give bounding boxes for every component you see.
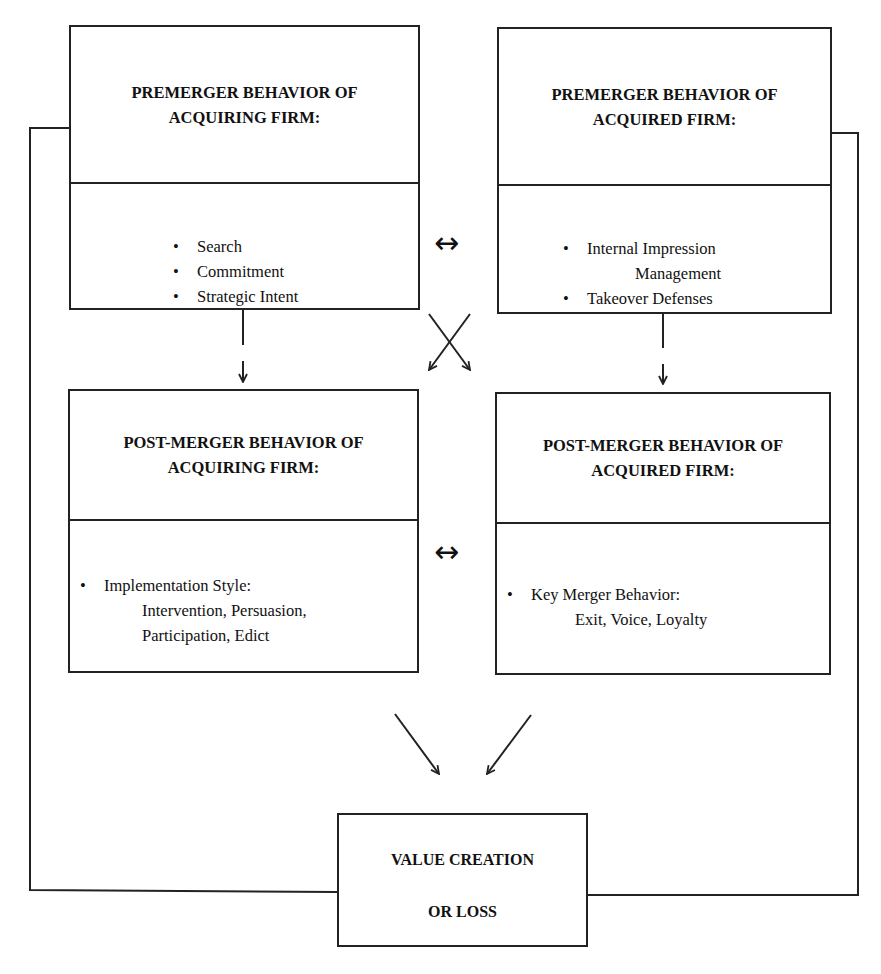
list-item-text: Internal Impression [587,239,716,258]
list-item-text: Intervention, Persuasion, [104,598,307,623]
box-premerger-acquired: PREMERGER BEHAVIOR OF ACQUIRED FIRM: Int… [497,27,832,314]
box-title: ACQUIRING FIRM: [131,105,357,130]
list-item: Key Merger Behavior: Exit, Voice, Loyalt… [507,582,707,632]
box-body: Key Merger Behavior: Exit, Voice, Loyalt… [497,524,829,673]
box-title: PREMERGER BEHAVIOR OF [131,80,357,105]
box-header: POST-MERGER BEHAVIOR OF ACQUIRING FIRM: [70,391,417,521]
box-body: Implementation Style: Intervention, Pers… [70,521,417,671]
box-title: POST-MERGER BEHAVIOR OF [543,433,783,458]
list-item-text: Participation, Edict [104,623,307,648]
box-postmerger-acquiring: POST-MERGER BEHAVIOR OF ACQUIRING FIRM: … [68,389,419,673]
box-header: PREMERGER BEHAVIOR OF ACQUIRED FIRM: [499,29,830,186]
box-title: POST-MERGER BEHAVIOR OF [123,430,363,455]
box-header: POST-MERGER BEHAVIOR OF ACQUIRED FIRM: [497,394,829,524]
outcome-label: VALUE CREATION [339,851,586,869]
box-premerger-acquiring: PREMERGER BEHAVIOR OF ACQUIRING FIRM: Se… [69,25,420,310]
arrow-to-outcome-right [487,715,531,774]
list-item-text: Implementation Style: [104,576,251,595]
list-item: Strategic Intent [173,284,298,309]
list-item: Internal Impression Management [563,236,721,286]
box-postmerger-acquired: POST-MERGER BEHAVIOR OF ACQUIRED FIRM: K… [495,392,831,675]
box-title: ACQUIRING FIRM: [123,455,363,480]
box-body: Internal Impression Management Takeover … [499,186,830,312]
box-header: PREMERGER BEHAVIOR OF ACQUIRING FIRM: [71,27,418,184]
box-title: ACQUIRED FIRM: [551,107,777,132]
list-item: Commitment [173,259,298,284]
bidirectional-arrow-icon: ↔ [434,537,459,567]
box-body: Search Commitment Strategic Intent [71,184,418,308]
list-item-text: Exit, Voice, Loyalty [531,607,707,632]
box-title: PREMERGER BEHAVIOR OF [551,82,777,107]
box-value-creation-or-loss: VALUE CREATION OR LOSS [337,813,588,947]
list-item-text: Management [587,261,721,286]
list-item: Takeover Defenses [563,286,721,311]
list-item: Search [173,234,298,259]
arrow-to-outcome-left [395,714,439,774]
box-title: ACQUIRED FIRM: [543,458,783,483]
list-item: Implementation Style: Intervention, Pers… [80,573,307,648]
bidirectional-arrow-icon: ↔ [434,228,459,258]
outcome-label: OR LOSS [339,903,586,921]
list-item-text: Key Merger Behavior: [531,585,680,604]
